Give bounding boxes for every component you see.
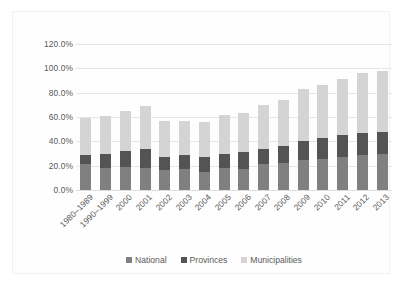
bar-segment-provinces[interactable] bbox=[377, 132, 388, 154]
plot-area bbox=[76, 44, 392, 190]
bar-column[interactable] bbox=[199, 44, 210, 190]
bar-segment-municipalities[interactable] bbox=[199, 122, 210, 157]
bar-segment-national[interactable] bbox=[337, 157, 348, 190]
bar-column[interactable] bbox=[219, 44, 230, 190]
bar-segment-national[interactable] bbox=[219, 168, 230, 190]
y-tick-label: 0.0% bbox=[54, 185, 74, 195]
y-tick-label: 80.0% bbox=[49, 88, 73, 98]
bar-segment-national[interactable] bbox=[298, 160, 309, 190]
bar-segment-national[interactable] bbox=[357, 155, 368, 190]
bar-segment-municipalities[interactable] bbox=[278, 100, 289, 146]
bar-segment-municipalities[interactable] bbox=[258, 105, 269, 149]
y-axis: 0.0%20.0%40.0%60.0%80.0%100.0%120.0% bbox=[25, 44, 73, 190]
bar-segment-municipalities[interactable] bbox=[140, 106, 151, 149]
bar-segment-municipalities[interactable] bbox=[377, 71, 388, 132]
bar-column[interactable] bbox=[298, 44, 309, 190]
bar-segment-provinces[interactable] bbox=[357, 133, 368, 154]
bar-segment-municipalities[interactable] bbox=[159, 121, 170, 158]
bar-column[interactable] bbox=[100, 44, 111, 190]
bar-segment-municipalities[interactable] bbox=[179, 121, 190, 156]
bars-layer bbox=[76, 44, 392, 190]
bar-column[interactable] bbox=[159, 44, 170, 190]
bar-segment-national[interactable] bbox=[317, 159, 328, 190]
bar-segment-provinces[interactable] bbox=[80, 155, 91, 165]
bar-column[interactable] bbox=[80, 44, 91, 190]
chart-legend: NationalProvincesMunicipalities bbox=[25, 255, 402, 265]
bar-segment-national[interactable] bbox=[377, 154, 388, 190]
bar-column[interactable] bbox=[337, 44, 348, 190]
bar-column[interactable] bbox=[317, 44, 328, 190]
chart-frame: 0.0%20.0%40.0%60.0%80.0%100.0%120.0% 198… bbox=[12, 11, 390, 274]
bar-segment-national[interactable] bbox=[258, 164, 269, 190]
bar-segment-provinces[interactable] bbox=[159, 157, 170, 170]
bar-segment-national[interactable] bbox=[80, 164, 91, 190]
bar-column[interactable] bbox=[258, 44, 269, 190]
bar-segment-municipalities[interactable] bbox=[298, 89, 309, 141]
x-axis: 1980–19891990–19992000200120022003200420… bbox=[76, 192, 392, 250]
legend-label: Municipalities bbox=[250, 255, 302, 265]
bar-segment-provinces[interactable] bbox=[179, 155, 190, 168]
legend-swatch-icon bbox=[126, 257, 132, 263]
y-tick-label: 60.0% bbox=[49, 112, 73, 122]
bar-segment-municipalities[interactable] bbox=[357, 73, 368, 133]
y-tick-label: 100.0% bbox=[44, 63, 73, 73]
bar-column[interactable] bbox=[140, 44, 151, 190]
bar-segment-municipalities[interactable] bbox=[100, 116, 111, 154]
bar-segment-national[interactable] bbox=[278, 163, 289, 190]
bar-segment-municipalities[interactable] bbox=[238, 113, 249, 151]
bar-segment-national[interactable] bbox=[199, 172, 210, 190]
bar-segment-national[interactable] bbox=[159, 170, 170, 190]
bar-segment-provinces[interactable] bbox=[337, 135, 348, 157]
bar-segment-provinces[interactable] bbox=[120, 151, 131, 167]
legend-swatch-icon bbox=[181, 257, 187, 263]
bar-segment-municipalities[interactable] bbox=[80, 118, 91, 155]
bar-segment-provinces[interactable] bbox=[317, 138, 328, 159]
legend-item[interactable]: Municipalities bbox=[241, 255, 302, 265]
bar-segment-provinces[interactable] bbox=[219, 154, 230, 169]
bar-segment-national[interactable] bbox=[120, 167, 131, 190]
legend-item[interactable]: National bbox=[126, 255, 167, 265]
bar-column[interactable] bbox=[357, 44, 368, 190]
legend-label: National bbox=[135, 255, 167, 265]
legend-item[interactable]: Provinces bbox=[181, 255, 228, 265]
bar-segment-national[interactable] bbox=[179, 169, 190, 190]
bar-segment-provinces[interactable] bbox=[298, 141, 309, 160]
bar-column[interactable] bbox=[278, 44, 289, 190]
bar-segment-municipalities[interactable] bbox=[219, 115, 230, 153]
bar-segment-national[interactable] bbox=[140, 168, 151, 191]
bar-segment-provinces[interactable] bbox=[238, 152, 249, 169]
bar-segment-provinces[interactable] bbox=[100, 154, 111, 168]
bar-column[interactable] bbox=[377, 44, 388, 190]
bar-segment-municipalities[interactable] bbox=[337, 79, 348, 136]
y-tick-label: 40.0% bbox=[49, 136, 73, 146]
bar-segment-provinces[interactable] bbox=[258, 149, 269, 165]
bar-column[interactable] bbox=[238, 44, 249, 190]
bar-segment-municipalities[interactable] bbox=[120, 111, 131, 151]
chart-figure: 0.0%20.0%40.0%60.0%80.0%100.0%120.0% 198… bbox=[0, 0, 402, 286]
bar-column[interactable] bbox=[179, 44, 190, 190]
bar-segment-provinces[interactable] bbox=[199, 157, 210, 172]
bar-segment-national[interactable] bbox=[100, 168, 111, 191]
bar-column[interactable] bbox=[120, 44, 131, 190]
bar-segment-national[interactable] bbox=[238, 169, 249, 190]
bar-segment-provinces[interactable] bbox=[140, 149, 151, 167]
bar-segment-municipalities[interactable] bbox=[317, 85, 328, 138]
bar-segment-provinces[interactable] bbox=[278, 146, 289, 162]
y-tick-label: 20.0% bbox=[49, 161, 73, 171]
y-tick-label: 120.0% bbox=[44, 39, 73, 49]
legend-swatch-icon bbox=[241, 257, 247, 263]
legend-label: Provinces bbox=[190, 255, 228, 265]
